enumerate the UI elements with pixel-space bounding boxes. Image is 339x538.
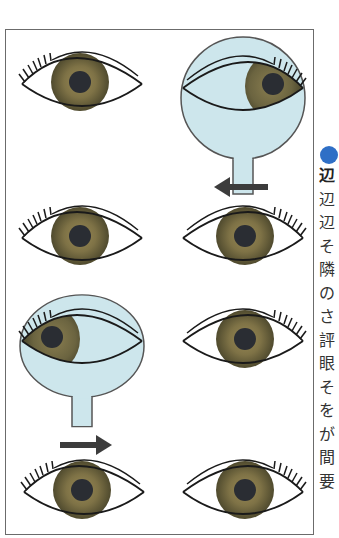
side-char: 辺 [319,211,339,235]
side-char: さ [319,305,339,329]
side-char: 眼 [319,352,339,376]
side-char: そ [319,376,339,400]
side-char: を [319,399,339,423]
row-2-left-eye [19,206,142,265]
side-char: 隣 [319,258,339,282]
side-text-column: 辺 辺 辺 そ 隣 の さ 評 眼 そ を が 間 要 [319,146,339,493]
row-3-right-eye [183,309,306,368]
blue-bullet-icon [320,146,338,164]
side-char: そ [319,235,339,259]
row-4-left-eye [21,460,144,519]
side-char: が [319,423,339,447]
row-1-right-occluder-paddle [181,37,305,194]
side-char: 間 [319,446,339,470]
row-4-right-eye [183,460,306,519]
row-2-right-eye [183,206,306,265]
side-char: 評 [319,329,339,353]
side-char: 要 [319,470,339,494]
side-heading-char: 辺 [319,164,339,188]
side-char: 辺 [319,188,339,212]
row-1-left-eye [19,52,142,111]
side-char: の [319,282,339,306]
row-4-arrow-right-icon [60,435,112,455]
